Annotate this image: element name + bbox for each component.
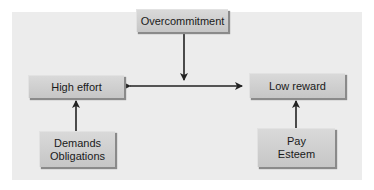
high-effort-label: High effort [51, 81, 102, 94]
demands-label: Demands [54, 137, 101, 150]
pay-esteem-node: Pay Esteem [257, 128, 335, 167]
high-effort-node: High effort [28, 75, 124, 98]
obligations-label: Obligations [50, 150, 105, 163]
pay-label: Pay [287, 135, 306, 148]
overcommitment-node: Overcommitment [136, 9, 228, 32]
demands-obligations-node: Demands Obligations [39, 131, 115, 167]
esteem-label: Esteem [278, 148, 315, 161]
overcommitment-label: Overcommitment [141, 15, 225, 28]
low-reward-node: Low reward [249, 73, 345, 98]
low-reward-label: Low reward [269, 80, 326, 93]
